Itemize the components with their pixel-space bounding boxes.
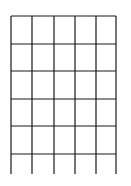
grid-diagram — [0, 0, 131, 186]
vertical-grid-lines — [11, 16, 116, 174]
horizontal-grid-lines — [11, 16, 116, 154]
